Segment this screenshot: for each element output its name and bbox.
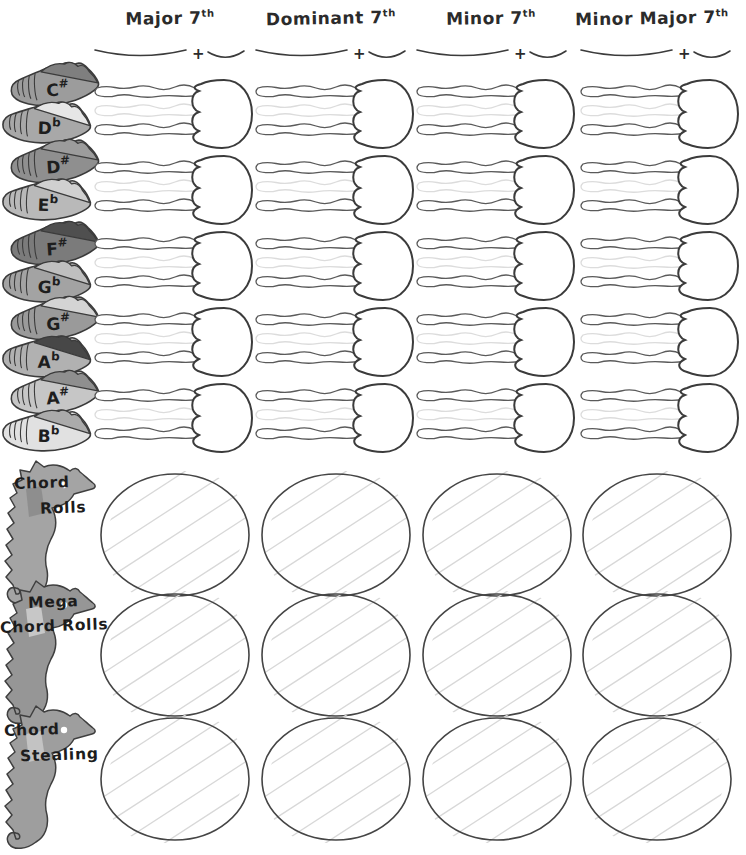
jellyfish-practice-cell	[250, 154, 416, 226]
tentacle-line	[417, 85, 522, 97]
column-header-minor-7th: Minor 7th	[402, 6, 580, 29]
note-accidental: b	[51, 423, 60, 437]
practice-oval	[97, 591, 253, 719]
oval-hatch-line	[97, 591, 253, 719]
jellyfish-bell-icon	[192, 308, 252, 376]
oval-hatch-line	[97, 591, 248, 679]
column-guide: +	[413, 42, 573, 68]
tentacle-line	[581, 351, 686, 363]
practice-oval	[97, 715, 253, 843]
column-header-minor-major-7th: Minor Major 7th	[563, 6, 741, 29]
exercise-row-label-line2: Rolls	[40, 498, 87, 518]
column-header-text: Minor Major 7	[575, 7, 716, 29]
note-accidental: #	[60, 153, 71, 168]
tentacle-line-faint	[256, 104, 361, 116]
tentacle-line-faint	[256, 332, 361, 344]
jellyfish-bell-icon	[678, 232, 738, 300]
tentacle-line	[581, 237, 686, 249]
column-header-dominant-7th: Dominant 7th	[242, 6, 420, 29]
jellyfish-practice-cell	[89, 230, 255, 302]
jellyfish-practice-cell	[411, 78, 577, 150]
tentacle-line	[417, 313, 522, 325]
note-letter: D	[37, 118, 52, 138]
exercise-row-label-line1: Chord	[4, 720, 60, 740]
oval-hatch-line	[258, 715, 409, 803]
jellyfish-bell-icon	[353, 80, 413, 148]
practice-oval	[258, 715, 414, 843]
jellyfish-practice-cell	[411, 382, 577, 454]
tentacle-line-faint	[95, 180, 200, 192]
tentacle-line-faint	[581, 332, 686, 344]
tentacle-line	[581, 389, 686, 401]
long-curve	[95, 50, 186, 56]
tentacle-line	[581, 199, 686, 211]
jellyfish-bell-icon	[514, 80, 574, 148]
jellyfish-practice-cell	[250, 230, 416, 302]
tentacle-line	[95, 313, 200, 325]
column-header-sup: th	[383, 7, 396, 18]
oval-hatch-line	[584, 631, 735, 719]
oval-hatch-line	[424, 631, 575, 719]
oval-hatch-line	[419, 591, 570, 679]
oval-hatch-line	[579, 715, 730, 803]
oval-hatch-line	[263, 631, 414, 719]
worksheet-page: Major 7th Dominant 7th Minor 7th Minor M…	[0, 0, 746, 855]
exercise-row-label-line1: Chord	[14, 473, 70, 493]
oval-hatch-line	[97, 471, 253, 599]
exercise-row-label-line2: Chord Rolls	[0, 615, 109, 637]
oval-hatch-line	[419, 471, 570, 559]
oval-hatch-line	[579, 715, 735, 843]
tentacle-line	[95, 427, 200, 439]
short-curve	[694, 51, 730, 57]
jellyfish-bell-icon	[678, 308, 738, 376]
oval-hatch-line	[97, 715, 253, 843]
jellyfish-practice-cell	[250, 306, 416, 378]
tentacle-line-faint	[417, 180, 522, 192]
jellyfish-bell-icon	[192, 384, 252, 452]
tentacle-line	[256, 389, 361, 401]
oval-hatch-line	[97, 715, 248, 803]
column-guide: +	[252, 42, 412, 68]
tentacle-line	[256, 161, 361, 173]
tentacle-line-faint	[417, 408, 522, 420]
tentacle-line	[95, 351, 200, 363]
jellyfish-bell-icon	[678, 384, 738, 452]
tentacle-line	[417, 351, 522, 363]
note-letter: G	[46, 314, 61, 335]
oval-hatch	[419, 471, 575, 599]
oval-hatch-line	[263, 511, 414, 599]
plus-sign: +	[678, 45, 691, 63]
column-guide: +	[91, 42, 251, 68]
tentacle-line	[417, 427, 522, 439]
tentacle-line-faint	[256, 180, 361, 192]
tentacle-line-faint	[256, 408, 361, 420]
oval-hatch-line	[579, 471, 730, 559]
practice-oval	[97, 471, 253, 599]
tentacle-line	[256, 123, 361, 135]
tentacle-line-faint	[256, 256, 361, 268]
tentacle-line-faint	[95, 332, 200, 344]
oval-hatch	[258, 471, 414, 599]
tentacle-line	[581, 123, 686, 135]
oval-hatch-line	[102, 755, 253, 843]
long-curve	[417, 50, 508, 56]
note-letter: A	[37, 352, 52, 372]
seahorse-eye	[61, 727, 67, 733]
tentacle-line-faint	[95, 256, 200, 268]
tentacle-line	[256, 275, 361, 287]
tentacle-line-faint	[581, 104, 686, 116]
oval-hatch	[419, 591, 575, 719]
tentacle-line	[95, 85, 200, 97]
tentacle-line	[417, 123, 522, 135]
tentacle-line-faint	[581, 180, 686, 192]
jellyfish-bell-icon	[192, 80, 252, 148]
jellyfish-bell-icon	[353, 232, 413, 300]
short-curve	[208, 51, 244, 57]
short-curve	[530, 51, 566, 57]
oval-hatch-line	[97, 471, 248, 559]
exercise-row-label-line1: Mega	[28, 592, 79, 612]
practice-oval	[419, 471, 575, 599]
note-accidental: #	[57, 235, 68, 250]
plus-sign: +	[514, 45, 527, 63]
oval-hatch-line	[419, 715, 570, 803]
